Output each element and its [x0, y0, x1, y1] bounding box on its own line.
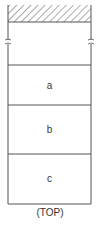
layer-c-label: c	[8, 173, 91, 184]
layer-a-label: a	[8, 80, 91, 91]
layer-stack-diagram	[0, 0, 100, 229]
layer-b-label: b	[8, 124, 91, 135]
hatched-band	[8, 5, 91, 22]
caption: (TOP)	[0, 207, 100, 218]
